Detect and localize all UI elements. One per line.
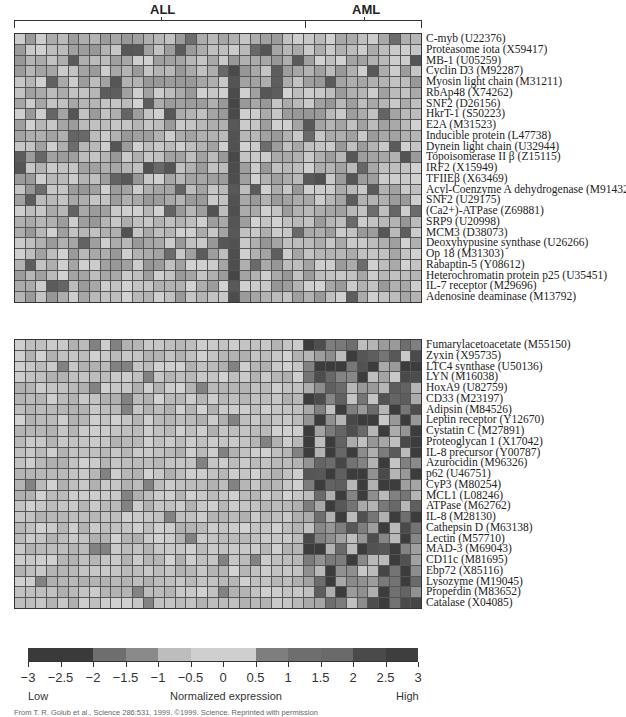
heatmap-cell — [283, 340, 293, 350]
heatmap-cell — [47, 99, 57, 109]
heatmap-cell — [240, 523, 250, 533]
colorbar-segment — [321, 648, 354, 661]
heatmap-cell — [368, 152, 378, 162]
heatmap-cell — [144, 249, 154, 259]
heatmap-cell — [272, 120, 282, 130]
heatmap-cell — [90, 249, 100, 259]
heatmap-cell — [208, 260, 218, 270]
heatmap-cell — [90, 56, 100, 66]
heatmap-cell — [336, 249, 346, 259]
heatmap-cell — [219, 195, 229, 205]
heatmap-cell — [111, 292, 121, 302]
heatmap-cell — [144, 351, 154, 361]
heatmap-cell — [101, 437, 111, 447]
heatmap-cell — [304, 88, 314, 98]
heatmap-cell — [144, 206, 154, 216]
heatmap-cell — [219, 34, 229, 44]
heatmap-cell — [58, 372, 68, 382]
heatmap-cell — [347, 260, 357, 270]
heatmap-cell — [347, 383, 357, 393]
heatmap-cell — [208, 195, 218, 205]
heatmap-cell — [304, 249, 314, 259]
heatmap-cell — [133, 206, 143, 216]
heatmap-cell — [293, 394, 303, 404]
heatmap-cell — [390, 195, 400, 205]
heatmap-cell — [26, 394, 36, 404]
heatmap-cell — [304, 351, 314, 361]
heatmap-cell — [326, 174, 336, 184]
heatmap-cell — [379, 174, 389, 184]
heatmap-cell — [58, 512, 68, 522]
heatmap-cell — [229, 228, 239, 238]
colorbar-segment — [93, 648, 126, 661]
heatmap-cell — [58, 491, 68, 501]
heatmap-cell — [197, 394, 207, 404]
heatmap-cell — [326, 45, 336, 55]
heatmap-cell — [390, 281, 400, 291]
heatmap-cell — [176, 544, 186, 554]
heatmap-cell — [283, 152, 293, 162]
heatmap-cell — [101, 249, 111, 259]
heatmap-cell — [47, 469, 57, 479]
heatmap-cell — [326, 577, 336, 587]
heatmap-cell — [272, 249, 282, 259]
heatmap-cell — [186, 238, 196, 248]
heatmap-cell — [90, 351, 100, 361]
heatmap-cell — [229, 206, 239, 216]
heatmap-cell — [133, 249, 143, 259]
heatmap-cell — [111, 34, 121, 44]
heatmap-cell — [26, 351, 36, 361]
heatmap-cell — [368, 577, 378, 587]
heatmap-cell — [401, 351, 411, 361]
heatmap-cell — [111, 394, 121, 404]
colorbar-segment — [288, 648, 321, 661]
heatmap-cell — [176, 206, 186, 216]
figure-caption: From T. R. Golub et al., Science 286:531… — [14, 708, 318, 717]
heatmap-cell — [272, 99, 282, 109]
heatmap-cell — [261, 238, 271, 248]
heatmap-cell — [144, 491, 154, 501]
heatmap-cell — [293, 523, 303, 533]
heatmap-cell — [26, 577, 36, 587]
heatmap-cell — [122, 271, 132, 281]
heatmap-cell — [26, 131, 36, 141]
heatmap-cell — [390, 469, 400, 479]
heatmap-cell — [165, 292, 175, 302]
heatmap-cell — [229, 45, 239, 55]
heatmap-cell — [240, 405, 250, 415]
heatmap-cell — [133, 99, 143, 109]
heatmap-cell — [229, 195, 239, 205]
heatmap-cell — [176, 66, 186, 76]
heatmap-cell — [101, 152, 111, 162]
heatmap-cell — [304, 544, 314, 554]
heatmap-cell — [154, 217, 164, 227]
heatmap-cell — [368, 249, 378, 259]
heatmap-cell — [326, 163, 336, 173]
heatmap-cell — [36, 587, 46, 597]
heatmap-cell — [79, 351, 89, 361]
heatmap-cell — [69, 405, 79, 415]
heatmap-cell — [379, 66, 389, 76]
heatmap-cell — [208, 238, 218, 248]
heatmap-cell — [208, 142, 218, 152]
heatmap-cell — [401, 88, 411, 98]
heatmap-cell — [15, 587, 25, 597]
heatmap-cell — [293, 501, 303, 511]
heatmap-cell — [176, 228, 186, 238]
heatmap-cell — [390, 292, 400, 302]
heatmap-cell — [15, 152, 25, 162]
heatmap-cell — [26, 426, 36, 436]
heatmap-cell — [411, 587, 421, 597]
heatmap-cell — [176, 195, 186, 205]
heatmap-cell — [58, 163, 68, 173]
heatmap-cell — [261, 34, 271, 44]
heatmap-cell — [401, 109, 411, 119]
heatmap-cell — [390, 217, 400, 227]
heatmap-cell — [69, 415, 79, 425]
heatmap-cell — [165, 566, 175, 576]
gene-label: Proteasome iota (X59417) — [426, 44, 626, 55]
heatmap-cell — [154, 120, 164, 130]
heatmap-cell — [197, 260, 207, 270]
heatmap-cell — [208, 415, 218, 425]
heatmap-cell — [240, 131, 250, 141]
